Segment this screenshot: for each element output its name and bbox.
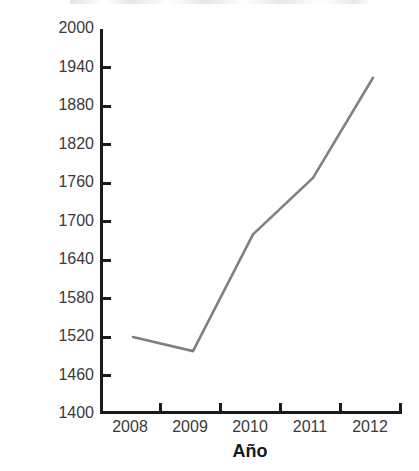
cropped-title-sliver <box>70 0 370 4</box>
y-axis-tick-label: 1460 <box>34 366 94 384</box>
y-axis-tick-label: 1640 <box>34 250 94 268</box>
y-axis-tick-label: 1520 <box>34 327 94 345</box>
data-line-series <box>100 29 400 414</box>
y-axis-tick-label: 1880 <box>34 96 94 114</box>
series-polyline <box>133 78 373 351</box>
chart-figure: Miles de millones de dólares 14001460152… <box>0 0 419 471</box>
y-axis-tick-label: 1700 <box>34 212 94 230</box>
y-axis-tick-label: 1580 <box>34 289 94 307</box>
y-axis-tick-label: 1820 <box>34 135 94 153</box>
x-axis-tick-label: 2012 <box>335 418 405 436</box>
y-axis-tick-label: 1940 <box>34 58 94 76</box>
y-axis-title-container: Miles de millones de dólares <box>2 14 30 410</box>
y-axis-tick-label: 1400 <box>34 404 94 422</box>
plot-area <box>100 29 400 414</box>
y-axis-title: Miles de millones de dólares <box>2 0 30 42</box>
y-axis-tick-label: 1760 <box>34 173 94 191</box>
x-axis-title: Año <box>100 441 400 462</box>
y-axis-tick-label: 2000 <box>34 19 94 37</box>
